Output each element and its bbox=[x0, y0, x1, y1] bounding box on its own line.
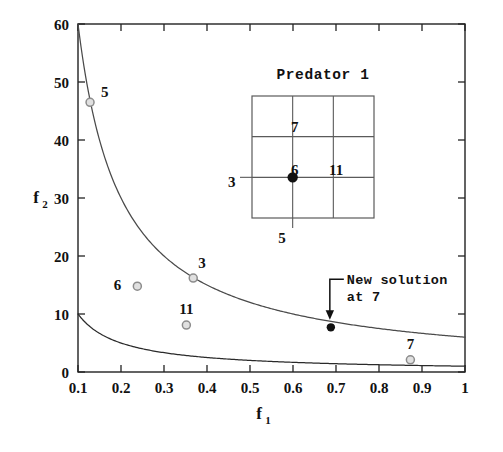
inset-label-right-cell: 11 bbox=[329, 162, 343, 178]
inset-title: Predator 1 bbox=[276, 67, 369, 83]
x-tick-label-3: 0.4 bbox=[198, 380, 217, 396]
marker-open bbox=[189, 274, 197, 282]
inset-label-top-cell: 7 bbox=[291, 119, 299, 135]
marker-open bbox=[133, 282, 141, 290]
x-axis-title-base: f bbox=[256, 404, 262, 423]
inset-label-left-axis: 3 bbox=[228, 174, 236, 190]
inset-label-bottom-axis: 5 bbox=[278, 230, 286, 246]
x-tick-label-6: 0.7 bbox=[327, 380, 346, 396]
x-tick-label-1: 0.2 bbox=[112, 380, 131, 396]
y-tick-label-4: 40 bbox=[54, 133, 69, 149]
annotation-line-1: New solution bbox=[347, 273, 448, 288]
marker-open bbox=[182, 321, 190, 329]
annotation-line-2: at 7 bbox=[347, 290, 381, 305]
y-tick-label-5: 50 bbox=[54, 75, 69, 91]
point-solutions-7: 7 bbox=[406, 336, 414, 364]
figure-container: 0.10.20.30.40.50.60.70.80.91 01020304050… bbox=[0, 0, 503, 452]
point-label-3: 3 bbox=[198, 255, 206, 271]
y-tick-label-1: 10 bbox=[54, 307, 69, 323]
point-label-7: 7 bbox=[407, 336, 415, 352]
inset-label-center: 6 bbox=[291, 162, 299, 178]
y-tick-label-2: 20 bbox=[54, 249, 69, 265]
point-label-5: 5 bbox=[101, 84, 109, 100]
x-tick-label-9: 1 bbox=[461, 380, 469, 396]
marker-open bbox=[86, 98, 94, 106]
y-axis-title-base: f bbox=[33, 188, 39, 207]
y-tick-label-3: 30 bbox=[54, 191, 69, 207]
y-tick-label-6: 60 bbox=[54, 17, 69, 33]
scatter-plot: 0.10.20.30.40.50.60.70.80.91 01020304050… bbox=[0, 0, 503, 452]
y-tick-label-0: 0 bbox=[62, 365, 70, 381]
point-new-solution-0 bbox=[327, 323, 335, 331]
x-axis-title-subscript: 1 bbox=[265, 414, 271, 426]
x-tick-label-8: 0.9 bbox=[413, 380, 432, 396]
x-tick-label-5: 0.6 bbox=[284, 380, 303, 396]
point-label-6: 6 bbox=[114, 277, 122, 293]
y-axis-title-subscript: 2 bbox=[42, 198, 48, 210]
marker-open bbox=[406, 356, 414, 364]
x-tick-label-7: 0.8 bbox=[370, 380, 389, 396]
x-tick-label-4: 0.5 bbox=[241, 380, 260, 396]
x-tick-label-0: 0.1 bbox=[69, 380, 88, 396]
x-tick-label-2: 0.3 bbox=[155, 380, 174, 396]
marker-filled bbox=[327, 323, 335, 331]
point-label-11: 11 bbox=[179, 301, 193, 317]
